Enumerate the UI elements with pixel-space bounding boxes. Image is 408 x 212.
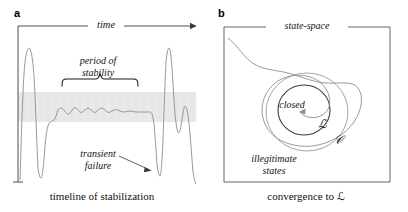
transient-failure-label: transient failure [80,148,116,171]
period-of-stability-line2: stability [80,67,116,79]
time-axis-label: time [97,19,115,31]
legitimate-set-symbol-label: ℒ [318,119,327,131]
transient-failure-arrow [119,156,152,172]
panel-b: b state-space closed ℒ 𝒞 illegi [204,0,408,212]
panel-b-caption: convergence to ℒ [204,190,408,203]
panel-a: a [0,0,204,212]
trajectory-curve [228,38,361,146]
transient-failure-line2: failure [80,160,116,172]
period-of-stability-line1: period of [80,55,116,67]
panel-b-graphics [204,0,408,212]
illegitimate-states-line1: illegitimate [251,153,297,165]
panel-a-graphics [0,0,204,212]
state-space-box [224,27,390,182]
period-of-stability-label: period of stability [80,55,116,78]
figure-root: a [0,0,408,212]
illegitimate-states-label: illegitimate states [251,153,297,176]
closed-region-label: closed [279,99,305,111]
panel-a-caption: timeline of stabilization [0,190,204,203]
illegitimate-states-line2: states [251,165,297,177]
transient-failure-line1: transient [80,148,116,160]
closure-set-symbol-label: 𝒞 [334,135,343,147]
state-space-label: state-space [285,20,330,32]
stability-band [18,92,196,122]
